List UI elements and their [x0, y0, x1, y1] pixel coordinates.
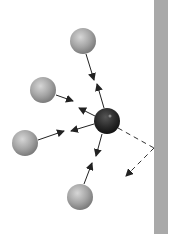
incoming-arrows [38, 54, 104, 184]
particle [30, 77, 56, 103]
particle [67, 184, 93, 210]
reflection-path [118, 128, 154, 176]
particle [12, 130, 38, 156]
central-particle [94, 108, 120, 134]
collision-diagram [0, 0, 176, 234]
wall [154, 0, 168, 234]
central-particle-highlight [109, 115, 112, 118]
particle [70, 28, 96, 54]
